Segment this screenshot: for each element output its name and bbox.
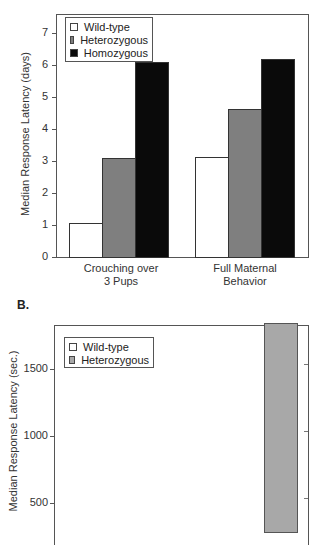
bar-crouching-wild-type	[69, 223, 103, 258]
tick	[52, 97, 56, 98]
tick	[52, 33, 56, 34]
y-tick-1: 1	[18, 218, 48, 230]
y-tick-7: 7	[18, 26, 48, 38]
y-tick-500: 500	[18, 496, 48, 508]
y-tick-1500: 1500	[18, 362, 48, 374]
y-tick-0: 0	[18, 250, 48, 262]
bar-crouching-heterozygous	[102, 158, 136, 258]
bar-full-homozygous	[261, 59, 295, 258]
tick	[52, 161, 56, 162]
tick	[52, 129, 56, 130]
bar-full-heterozygous	[228, 109, 262, 258]
tick	[304, 364, 308, 365]
legend-item-heterozygous: Heterozygous	[70, 33, 148, 46]
y-tick-1000: 1000	[18, 429, 48, 441]
x-category-crouching: Crouching over 3 Pups	[66, 262, 176, 288]
swatch-wild-type	[70, 23, 78, 31]
y-tick-3: 3	[18, 154, 48, 166]
tick	[52, 65, 56, 66]
y-tick-4: 4	[18, 122, 48, 134]
panel-a-legend: Wild-type Heterozygous Homozygous	[65, 17, 153, 62]
bar-crouching-homozygous	[135, 62, 169, 258]
x-category-full-maternal: Full Maternal Behavior	[193, 262, 297, 288]
tick	[52, 257, 56, 258]
tick	[50, 436, 54, 437]
swatch-wild-type	[69, 343, 77, 351]
tick	[50, 369, 54, 370]
y-tick-5: 5	[18, 90, 48, 102]
tick	[50, 503, 54, 504]
y-tick-2: 2	[18, 186, 48, 198]
legend-item-homozygous: Homozygous	[70, 46, 148, 59]
swatch-heterozygous	[70, 36, 74, 44]
legend-item-heterozygous: Heterozygous	[69, 353, 149, 366]
tick	[52, 225, 56, 226]
y-tick-6: 6	[18, 58, 48, 70]
bar-full-wild-type	[195, 157, 229, 258]
swatch-heterozygous	[69, 356, 75, 364]
swatch-homozygous	[70, 49, 78, 57]
tick	[52, 193, 56, 194]
tick	[304, 431, 308, 432]
bar-b-heterozygous	[264, 323, 298, 533]
legend-item-wild-type: Wild-type	[70, 20, 148, 33]
panel-b-label: B.	[17, 298, 29, 312]
legend-item-wild-type: Wild-type	[69, 340, 149, 353]
panel-b-legend: Wild-type Heterozygous	[64, 337, 154, 368]
tick	[304, 498, 308, 499]
